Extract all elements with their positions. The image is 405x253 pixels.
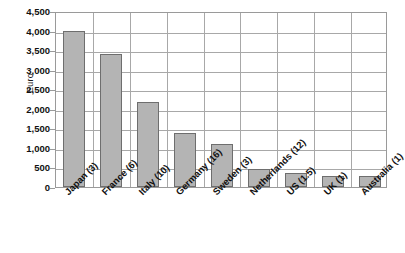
bar — [100, 54, 122, 187]
y-tick-mark — [50, 90, 55, 91]
y-tick-label: 1,500 — [14, 124, 50, 134]
x-axis-tick-labels: Japan (3)France (6)Italy (10)Germany (16… — [55, 190, 387, 253]
y-axis-tick-labels: 4,5004,0003,5003,0002,5002,0001,5001,000… — [14, 0, 50, 253]
y-tick-label: 2,500 — [14, 85, 50, 95]
y-tick-label: 2,000 — [14, 105, 50, 115]
bars-layer — [56, 13, 386, 187]
y-tick-mark — [50, 51, 55, 52]
y-tick-mark — [50, 188, 55, 189]
y-tick-label: 0 — [14, 183, 50, 193]
y-tick-label: 3,000 — [14, 66, 50, 76]
y-tick-mark — [50, 129, 55, 130]
y-tick-mark — [50, 168, 55, 169]
y-tick-mark — [50, 110, 55, 111]
y-tick-label: 4,000 — [14, 27, 50, 37]
y-tick-label: 1,000 — [14, 144, 50, 154]
y-tick-mark — [50, 32, 55, 33]
plot-area — [55, 12, 387, 188]
y-tick-label: 3,500 — [14, 46, 50, 56]
y-tick-label: 4,500 — [14, 7, 50, 17]
y-tick-label: 500 — [14, 163, 50, 173]
y-tick-mark — [50, 149, 55, 150]
y-tick-mark — [50, 12, 55, 13]
y-tick-mark — [50, 71, 55, 72]
bar — [63, 31, 85, 187]
